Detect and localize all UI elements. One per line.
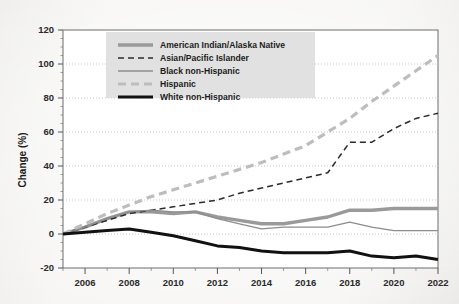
x-tick-label-2018: 2018 — [339, 277, 360, 288]
x-tick-label-2012: 2012 — [207, 277, 228, 288]
y-tick-label-100: 100 — [38, 58, 54, 69]
y-axis: -20020406080100120 — [38, 24, 63, 273]
x-tick-label-2022: 2022 — [427, 277, 448, 288]
line-chart-figure: -20020406080100120 200620082010201220142… — [0, 0, 459, 304]
legend-label-2: Black non-Hispanic — [160, 66, 240, 76]
legend-label-0: American Indian/Alaska Native — [160, 40, 285, 50]
legend-label-4: White non-Hispanic — [160, 92, 240, 102]
y-axis-title: Change (%) — [17, 133, 28, 188]
y-tick-label-80: 80 — [43, 92, 54, 103]
legend-label-1: Asian/Pacific Islander — [160, 53, 249, 63]
x-tick-label-2016: 2016 — [295, 277, 316, 288]
chart-legend: American Indian/Alaska NativeAsian/Pacif… — [106, 32, 315, 102]
y-tick-label--20: -20 — [40, 262, 54, 273]
y-tick-label-40: 40 — [43, 160, 54, 171]
x-tick-label-2010: 2010 — [163, 277, 184, 288]
x-tick-label-2006: 2006 — [74, 277, 95, 288]
x-tick-label-2008: 2008 — [119, 277, 140, 288]
y-tick-label-120: 120 — [38, 24, 54, 35]
x-axis: 200620082010201220142016201820202022 — [63, 268, 449, 288]
chart-screenshot: -20020406080100120 200620082010201220142… — [0, 0, 459, 304]
x-tick-label-2020: 2020 — [383, 277, 404, 288]
legend-label-3: Hispanic — [160, 79, 196, 89]
chart-canvas: -20020406080100120 200620082010201220142… — [0, 0, 459, 304]
x-tick-label-2014: 2014 — [251, 277, 273, 288]
y-tick-label-60: 60 — [43, 126, 54, 137]
y-tick-label-20: 20 — [43, 194, 54, 205]
y-tick-label-0: 0 — [49, 228, 54, 239]
